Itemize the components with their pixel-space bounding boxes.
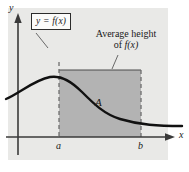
x-tick-a-label: a — [56, 141, 61, 151]
region-A-label: A — [95, 97, 102, 108]
annotation-line-2: of f(x) — [84, 40, 168, 51]
annotation-line-2-prefix: of — [114, 39, 125, 50]
annotation-line-2-function: f(x) — [124, 39, 138, 50]
function-callout-box: y = f(x) — [31, 13, 71, 30]
average-value-figure: y x a b A y = f(x) Average height of f(x… — [0, 0, 189, 172]
function-callout-label: y = f(x) — [36, 16, 66, 26]
x-axis-arrow-icon — [165, 133, 175, 140]
x-axis-label: x — [179, 130, 183, 140]
average-height-annotation: Average height of f(x) — [84, 29, 168, 51]
y-axis-label: y — [9, 3, 13, 13]
x-tick-b-label: b — [138, 141, 143, 151]
figure-canvas — [0, 0, 189, 172]
